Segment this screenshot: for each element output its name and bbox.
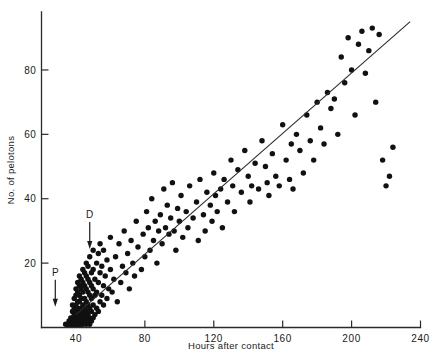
annotation-marker-p: P xyxy=(52,267,59,307)
data-point xyxy=(154,260,159,265)
data-point xyxy=(297,148,302,153)
data-point xyxy=(128,238,133,243)
data-point xyxy=(158,212,163,217)
annotation-marker-d: D xyxy=(86,209,93,249)
y-tick-label: 20 xyxy=(24,258,36,269)
data-point xyxy=(345,35,350,40)
y-tick-label: 40 xyxy=(24,193,36,204)
data-point xyxy=(108,267,113,272)
data-point xyxy=(289,141,294,146)
data-point xyxy=(264,180,269,185)
data-point xyxy=(163,225,168,230)
data-point xyxy=(104,296,109,301)
y-tick-label: 60 xyxy=(24,129,36,140)
data-point xyxy=(108,235,113,240)
data-point xyxy=(139,267,144,272)
data-point xyxy=(97,241,102,246)
data-point xyxy=(152,219,157,224)
data-point xyxy=(159,241,164,246)
data-point xyxy=(96,280,101,285)
data-point xyxy=(363,70,368,75)
data-point xyxy=(308,138,313,143)
data-point xyxy=(168,215,173,220)
data-point xyxy=(204,190,209,195)
data-point xyxy=(359,29,364,34)
data-point xyxy=(94,289,99,294)
data-point xyxy=(209,219,214,224)
data-point xyxy=(151,238,156,243)
data-point xyxy=(259,138,264,143)
data-point xyxy=(146,225,151,230)
data-point xyxy=(277,183,282,188)
data-point xyxy=(352,112,357,117)
data-point xyxy=(97,270,102,275)
data-point xyxy=(194,199,199,204)
data-point xyxy=(366,48,371,53)
data-point xyxy=(370,25,375,30)
data-point xyxy=(134,219,139,224)
data-point xyxy=(301,170,306,175)
data-point xyxy=(202,228,207,233)
data-point xyxy=(118,280,123,285)
data-point xyxy=(101,248,106,253)
y-tick-label: 80 xyxy=(24,65,36,76)
data-point xyxy=(380,157,385,162)
data-point xyxy=(96,251,101,256)
data-point xyxy=(170,180,175,185)
data-point xyxy=(383,183,388,188)
data-point xyxy=(239,190,244,195)
data-point xyxy=(132,273,137,278)
data-point xyxy=(125,251,130,256)
data-point xyxy=(121,228,126,233)
data-point xyxy=(228,157,233,162)
plot-canvas: 20406080 4080120160200240 PD Hours after… xyxy=(0,0,434,354)
data-point xyxy=(144,209,149,214)
data-point xyxy=(373,99,378,104)
data-point xyxy=(103,273,108,278)
data-point xyxy=(321,141,326,146)
data-point xyxy=(221,177,226,182)
data-point xyxy=(249,183,254,188)
data-point xyxy=(156,228,161,233)
data-point xyxy=(101,283,106,288)
data-point xyxy=(256,186,261,191)
data-point xyxy=(247,199,252,204)
data-point xyxy=(175,206,180,211)
data-point xyxy=(85,264,90,269)
data-point xyxy=(109,289,114,294)
data-point xyxy=(290,186,295,191)
data-point xyxy=(220,225,225,230)
data-point xyxy=(113,254,118,259)
data-point xyxy=(356,41,361,46)
x-tick-label: 40 xyxy=(70,333,82,344)
data-point xyxy=(294,132,299,137)
data-point xyxy=(328,106,333,111)
data-point xyxy=(161,186,166,191)
data-point xyxy=(280,122,285,127)
data-point xyxy=(332,96,337,101)
data-point xyxy=(178,193,183,198)
x-tick-label: 240 xyxy=(411,333,430,344)
data-point xyxy=(211,170,216,175)
data-point xyxy=(140,231,145,236)
data-point xyxy=(201,212,206,217)
annotation-label: P xyxy=(52,267,59,278)
data-point xyxy=(232,209,237,214)
data-point xyxy=(246,173,251,178)
data-point xyxy=(266,193,271,198)
data-point xyxy=(101,302,106,307)
data-point xyxy=(287,177,292,182)
y-axis-ticks: 20406080 xyxy=(24,65,48,269)
data-point xyxy=(196,238,201,243)
data-point xyxy=(225,199,230,204)
scatter-plot-figure: 20406080 4080120160200240 PD Hours after… xyxy=(0,0,434,354)
data-point xyxy=(149,196,154,201)
x-tick-label: 80 xyxy=(139,333,151,344)
x-axis-title: Hours after contact xyxy=(188,340,274,351)
data-point xyxy=(135,244,140,249)
data-point xyxy=(242,148,247,153)
data-point xyxy=(184,209,189,214)
x-tick-label: 160 xyxy=(273,333,292,344)
data-point xyxy=(90,267,95,272)
data-point xyxy=(187,183,192,188)
